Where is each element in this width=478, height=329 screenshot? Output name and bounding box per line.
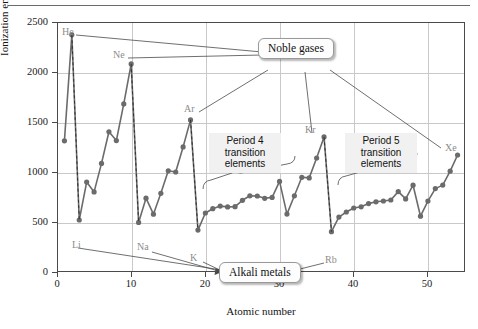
data-point [181, 144, 186, 149]
data-point [396, 189, 401, 194]
data-point [284, 212, 289, 217]
data-point [270, 195, 275, 200]
point-label-na: Na [137, 242, 149, 252]
ionization-energy-figure: Ionization energy (kJ/mol) 2500 2000 150… [0, 0, 478, 329]
data-point [143, 196, 148, 201]
data-point [373, 199, 378, 204]
data-point [166, 168, 171, 173]
data-point [91, 189, 96, 194]
point-label-he: He [62, 27, 74, 37]
point-label-ar: Ar [184, 104, 195, 114]
data-point [299, 175, 304, 180]
point-label-k: K [190, 253, 197, 263]
note-period-5-transition-elements: Period 5 transition elements [345, 133, 417, 173]
dropline-ar [191, 120, 198, 230]
data-point [344, 209, 349, 214]
data-point [225, 204, 230, 209]
callout-alkali-metals[interactable]: Alkali metals [219, 262, 301, 283]
data-point [403, 196, 408, 201]
data-point [448, 169, 453, 174]
data-point [418, 214, 423, 219]
data-point [440, 183, 445, 188]
data-point [203, 210, 208, 215]
note-period-4-transition-elements: Period 4 transition elements [209, 133, 281, 173]
data-point [410, 183, 415, 188]
data-point [433, 186, 438, 191]
data-point [173, 169, 178, 174]
data-point [388, 197, 393, 202]
point-label-ne: Ne [113, 50, 125, 60]
data-point [151, 212, 156, 217]
data-point [158, 191, 163, 196]
point-label-rb: Rb [325, 255, 337, 265]
data-point [232, 204, 237, 209]
point-label-kr: Kr [305, 125, 316, 135]
data-point [106, 129, 111, 134]
data-point [336, 215, 341, 220]
data-point [307, 175, 312, 180]
data-point [351, 205, 356, 210]
data-point [381, 198, 386, 203]
point-label-xe: Xe [445, 143, 457, 153]
data-point [99, 161, 104, 166]
data-point [277, 179, 282, 184]
data-point [292, 193, 297, 198]
point-label-li: Li [72, 240, 81, 250]
data-point [240, 198, 245, 203]
dropline-ne [131, 64, 138, 223]
data-point [84, 180, 89, 185]
data-point [62, 138, 67, 143]
data-point [314, 155, 319, 160]
data-point [255, 193, 260, 198]
data-point [247, 193, 252, 198]
data-point [366, 201, 371, 206]
data-point [114, 138, 119, 143]
data-point [210, 206, 215, 211]
data-point [359, 204, 364, 209]
callout-noble-gases[interactable]: Noble gases [258, 38, 334, 59]
data-point [262, 196, 267, 201]
data-point [455, 152, 460, 157]
data-point [425, 199, 430, 204]
data-point [121, 101, 126, 106]
data-point [218, 204, 223, 209]
